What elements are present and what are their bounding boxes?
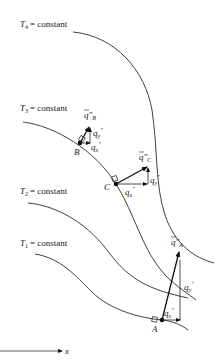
point-b-label: B <box>74 147 80 157</box>
isotherm-label-t4: T4= constant <box>20 19 68 30</box>
isotherm-curve-t3 <box>23 122 196 300</box>
qy-label-b: qy″ <box>93 127 103 139</box>
flux-label-b: q″B <box>84 110 96 121</box>
point-c-label: C <box>104 182 111 192</box>
qy-label-a: qy″ <box>184 281 194 293</box>
qx-label-c: qx″ <box>125 186 135 198</box>
flux-label-c: q″C <box>139 152 152 163</box>
isotherm-label-t1: T1= constant <box>20 238 68 249</box>
flux-vector-b <box>80 127 89 143</box>
flux-label-a: q″A <box>171 237 183 248</box>
isotherm-diagram: T4= constant T3= constant T2= constant T… <box>0 0 218 363</box>
isotherm-label-t2: T2= constant <box>20 186 68 197</box>
point-a-group: A q″A qy″ qx″ <box>151 237 194 334</box>
qx-label-b: qx″ <box>91 141 101 153</box>
point-c-dot <box>114 182 119 187</box>
point-a-dot <box>160 318 165 323</box>
isotherm-label-t3: T3= constant <box>20 103 68 114</box>
point-b-group: B q″B qy″ qx″ <box>74 110 103 157</box>
point-c-group: C q″C qy″ qx″ <box>104 152 160 198</box>
flux-vector-c <box>116 167 147 184</box>
x-axis-label: x <box>64 346 69 356</box>
point-a-label: A <box>151 324 158 334</box>
isotherm-curve-t2 <box>28 203 188 298</box>
point-b-dot <box>78 141 83 146</box>
qx-label-a: qx″ <box>164 307 174 319</box>
